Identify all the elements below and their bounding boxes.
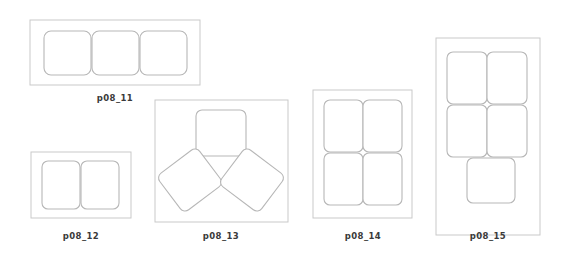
piece-p08_15-1 [447,52,487,104]
packing-figures-svg: p08_11p08_12p08_13p08_14p08_15 [0,0,574,255]
figure-caption-p08_11: p08_11 [97,93,133,103]
figure-caption-p08_14: p08_14 [345,231,381,241]
piece-p08_14-3 [324,153,363,205]
piece-p08_14-1 [324,100,363,152]
piece-p08_15-3 [447,105,487,157]
piece-p08_12-2 [81,161,119,209]
piece-p08_15-5 [467,158,515,203]
piece-p08_11-2 [92,31,139,75]
figure-p08_14: p08_14 [313,90,412,241]
figure-caption-p08_12: p08_12 [63,231,99,241]
piece-p08_12-1 [42,161,80,209]
figure-board: p08_11p08_12p08_13p08_14p08_15 [0,0,574,255]
figure-p08_12: p08_12 [31,152,131,241]
piece-p08_15-4 [487,105,527,157]
figure-p08_15: p08_15 [436,38,540,241]
piece-p08_11-1 [44,31,91,75]
piece-p08_13-1 [196,110,246,156]
piece-p08_15-2 [487,52,527,104]
figure-p08_11: p08_11 [30,20,200,103]
piece-p08_14-2 [363,100,402,152]
figure-caption-p08_13: p08_13 [203,231,239,241]
piece-p08_11-3 [140,31,187,75]
figure-caption-p08_15: p08_15 [470,231,506,241]
piece-p08_14-4 [363,153,402,205]
figure-p08_13: p08_13 [155,100,288,241]
